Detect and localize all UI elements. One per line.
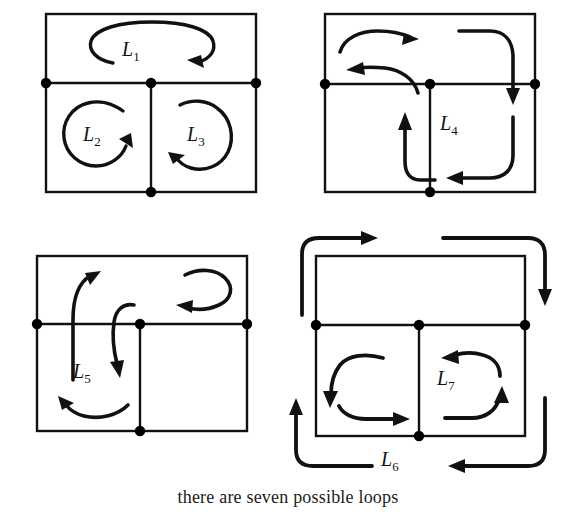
panel2-node-center xyxy=(425,79,435,89)
panel1-node-right xyxy=(251,78,261,88)
loop-L2-label: L2 xyxy=(82,123,101,149)
panel3-node-center xyxy=(135,319,145,329)
loop-L4-arrow-center-left xyxy=(346,62,418,93)
loop-L5-arrowhead-center-down xyxy=(110,360,124,378)
loop-L7-arrowhead-left-cell-right xyxy=(393,412,410,426)
loop-L4-arrow-right-down xyxy=(459,31,520,105)
loop-L4-arrowhead-bottom-left xyxy=(446,171,463,185)
loop-L6-arrow-top-right xyxy=(302,231,378,315)
loop-L5-arrow-top-left xyxy=(176,270,231,313)
panel1-node-left xyxy=(41,78,51,88)
loop-L1-arrowhead xyxy=(187,55,204,68)
panel3-node-left xyxy=(32,319,42,329)
loop-L6-arrowhead-left-up xyxy=(289,398,303,415)
loop-L3-label: L3 xyxy=(186,123,205,149)
loop-L7-arrow-left-cell-down xyxy=(323,355,383,408)
loop-L7-arrow-right-cell-left xyxy=(441,350,500,376)
loop-L6-arrowhead-bottom-left xyxy=(448,459,465,473)
panel1-node-center xyxy=(146,78,156,88)
loop-L5-arrow-center-down xyxy=(110,305,134,378)
loop-L7-arrowhead-right-cell-up xyxy=(494,386,509,403)
loop-L5-arrowhead-left-up xyxy=(85,271,101,285)
loop-L5-arrowhead-top-left xyxy=(176,300,193,313)
loop-L1-label: L1 xyxy=(121,38,140,64)
panel-bottom-right: L6 L7 xyxy=(289,231,552,474)
panel3-node-right xyxy=(242,319,252,329)
loop-L6-label: L6 xyxy=(380,448,399,474)
loop-L4-arrow-top-left xyxy=(340,31,419,52)
loop-L4-arrowhead-top-left xyxy=(402,33,419,45)
loop-L4-arrowhead-center-left xyxy=(346,62,365,75)
loop-L4-arrowhead-center-up xyxy=(398,112,412,130)
loop-L6-arrow-right-down xyxy=(443,238,552,306)
loop-L5-arrow-bottom-left xyxy=(58,396,128,417)
panel4-node-center xyxy=(414,320,424,330)
figure-caption: there are seven possible loops xyxy=(0,487,576,508)
loop-L5-arrowhead-bottom-left xyxy=(58,396,74,410)
loops-figure: L1 L2 L3 xyxy=(0,0,576,530)
panel-bottom-left: L5 xyxy=(32,256,252,436)
loop-L7-arrowhead-right-cell-left xyxy=(441,350,459,364)
panel3-node-bottom xyxy=(135,426,145,436)
panel2-node-bottom xyxy=(425,187,435,197)
panel4-node-left xyxy=(311,320,321,330)
loop-L4-label: L4 xyxy=(439,112,458,138)
loop-L5-label: L5 xyxy=(72,360,91,386)
loop-L1-arrow xyxy=(90,22,213,68)
panel4-node-bottom xyxy=(414,431,424,441)
panel-top-right: L4 xyxy=(320,14,540,197)
loops-diagram-svg: L1 L2 L3 xyxy=(0,0,576,530)
loop-L7-arrow-left-cell-right xyxy=(339,406,410,426)
panel2-node-left xyxy=(320,79,330,89)
panel1-node-bottom xyxy=(146,187,156,197)
loop-L6-arrow-left-up xyxy=(289,398,372,466)
loop-L7-label: L7 xyxy=(436,367,455,393)
loop-L6-arrowhead-right-down xyxy=(538,289,552,306)
loop-L4-arrowhead-right-down xyxy=(506,88,520,105)
panel2-node-right xyxy=(530,79,540,89)
loop-L7-arrowhead-left-cell-down xyxy=(323,391,338,408)
panel-top-left: L1 L2 L3 xyxy=(41,14,261,197)
panel4-node-right xyxy=(520,320,530,330)
loop-L6-arrowhead-top-right xyxy=(361,231,378,245)
